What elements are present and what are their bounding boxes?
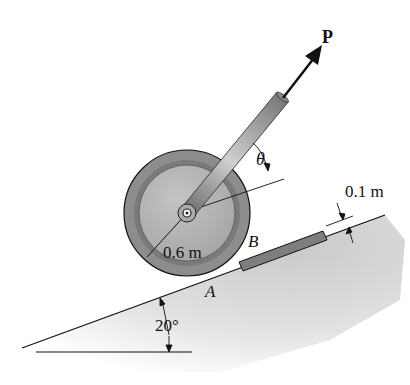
incline-angle-label: 20° bbox=[155, 317, 179, 334]
diagram-canvas: P θ 0.6 m B A 0.1 m 20° bbox=[0, 0, 410, 385]
point-a-label: A bbox=[205, 283, 215, 300]
force-p-arrow bbox=[283, 45, 322, 98]
point-b-label: B bbox=[248, 233, 258, 250]
theta-label: θ bbox=[256, 150, 265, 168]
block-thickness-label: 0.1 m bbox=[345, 183, 384, 200]
wheel-radius-label: 0.6 m bbox=[163, 244, 202, 261]
force-label: P bbox=[322, 28, 333, 46]
